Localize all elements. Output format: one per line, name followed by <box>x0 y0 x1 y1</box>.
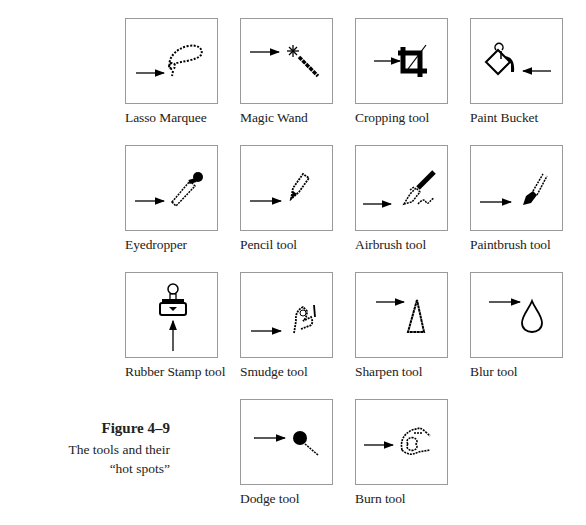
lasso-icon <box>125 18 218 104</box>
eyedropper-icon <box>125 145 218 231</box>
figure-caption: Figure 4–9 The tools and their “hot spot… <box>68 420 170 478</box>
crop-icon <box>355 18 448 104</box>
tool-cell-crop: Cropping tool <box>355 18 448 126</box>
paintbrush-icon <box>470 145 563 231</box>
burn-icon <box>355 399 448 485</box>
tool-cell-blur: Blur tool <box>470 272 563 380</box>
tool-label: Paint Bucket <box>470 110 563 126</box>
tool-label: Magic Wand <box>240 110 333 126</box>
tool-label: Eyedropper <box>125 237 218 253</box>
tool-label: Dodge tool <box>240 491 333 507</box>
tool-cell-airbrush: Airbrush tool <box>355 145 448 253</box>
caption-line-1: The tools and their <box>68 440 170 459</box>
tool-label: Lasso Marquee <box>125 110 218 126</box>
tool-cell-dodge: Dodge tool <box>240 399 333 507</box>
tool-cell-eyedropper: Eyedropper <box>125 145 218 253</box>
tool-cell-sharpen: Sharpen tool <box>355 272 448 380</box>
dodge-icon <box>240 399 333 485</box>
magic-wand-icon <box>240 18 333 104</box>
tool-label: Pencil tool <box>240 237 333 253</box>
tool-label: Sharpen tool <box>355 364 448 380</box>
blur-icon <box>470 272 563 358</box>
tool-label: Smudge tool <box>240 364 333 380</box>
tool-label: Burn tool <box>355 491 448 507</box>
tool-cell-smudge: Smudge tool <box>240 272 333 380</box>
rubber-stamp-icon <box>125 272 218 358</box>
tool-cell-rubber-stamp: Rubber Stamp tool <box>125 272 218 380</box>
tool-label: Cropping tool <box>355 110 448 126</box>
caption-line-2: “hot spots” <box>68 459 170 478</box>
paint-bucket-icon <box>470 18 563 104</box>
tool-label: Airbrush tool <box>355 237 448 253</box>
pencil-icon <box>240 145 333 231</box>
tool-cell-paintbrush: Paintbrush tool <box>470 145 563 253</box>
tool-cell-magic-wand: Magic Wand <box>240 18 333 126</box>
smudge-icon <box>240 272 333 358</box>
tool-cell-paint-bucket: Paint Bucket <box>470 18 563 126</box>
tool-cell-burn: Burn tool <box>355 399 448 507</box>
airbrush-icon <box>355 145 448 231</box>
tool-cell-pencil: Pencil tool <box>240 145 333 253</box>
sharpen-icon <box>355 272 448 358</box>
figure-title: Figure 4–9 <box>68 420 170 437</box>
tool-label: Blur tool <box>470 364 563 380</box>
tool-cell-lasso: Lasso Marquee <box>125 18 218 126</box>
tool-label: Paintbrush tool <box>470 237 563 253</box>
tool-label: Rubber Stamp tool <box>125 364 218 380</box>
